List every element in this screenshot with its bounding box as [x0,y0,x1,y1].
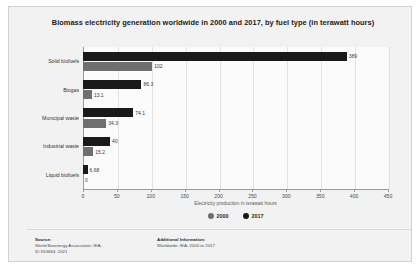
x-tick [151,189,152,192]
x-tick-label: 50 [114,193,120,199]
x-tick-label: 150 [180,193,189,199]
bar-2017 [83,165,88,174]
chart-page: Biomass electricity generation worldwide… [0,0,420,270]
x-tick-label: 450 [384,193,393,199]
bar-2000 [83,90,92,99]
gridline [355,47,356,189]
chart-card: Biomass electricity generation worldwide… [8,6,412,262]
category-label: Liquid biofuels [13,172,79,178]
footer-divider [27,229,411,230]
bar-value-label: 40 [112,138,118,144]
x-tick-label: 400 [350,193,359,199]
bar-value-label: 15.2 [95,149,105,155]
category-label: Industrial waste [13,143,79,149]
x-tick [117,189,118,192]
additional-info-line-1: Worldwide; IEA; 2000 to 2017 [157,243,287,249]
x-axis-title: Electricity production in terawatt hours [83,201,388,206]
x-tick [252,189,253,192]
gridline [253,47,254,189]
bar-value-label: 86.3 [143,81,153,87]
bar-2000 [83,147,93,156]
x-tick-label: 100 [147,193,156,199]
legend-swatch-icon [243,213,249,219]
category-label: Municipal waste [13,115,79,121]
x-tick-label: 200 [214,193,223,199]
bar-value-label: 0 [85,177,88,183]
x-tick [388,189,389,192]
legend-swatch-icon [208,213,214,219]
gridline [389,47,390,189]
bar-2017 [83,80,141,89]
legend-label: 2000 [217,213,229,219]
legend-item[interactable]: 2017 [243,213,264,219]
gridline [287,47,288,189]
legend-label: 2017 [252,213,264,219]
bar-value-label: 74.1 [135,110,145,116]
x-axis-line [83,189,388,190]
bar-2000 [83,119,106,128]
bar-value-label: 102 [154,63,162,69]
category-label: Biogas [13,87,79,93]
x-tick-label: 250 [248,193,257,199]
bar-2017 [83,137,110,146]
legend-item[interactable]: 2000 [208,213,229,219]
x-tick [185,189,186,192]
category-label: Solid biofuels [13,58,79,64]
x-tick [219,189,220,192]
bar-2000 [83,62,152,71]
gridline [220,47,221,189]
gridline [321,47,322,189]
bar-2017 [83,52,347,61]
x-tick-label: 300 [282,193,291,199]
bar-value-label: 13.1 [94,92,104,98]
additional-info-block: Additional Information: Worldwide; IEA; … [157,237,287,249]
x-tick-label: 0 [82,193,85,199]
x-tick [320,189,321,192]
x-tick [354,189,355,192]
gridline [186,47,187,189]
bar-value-label: 34.3 [108,120,118,126]
bar-value-label: 389 [349,53,357,59]
chart-legend: 20002017 [83,213,388,219]
x-tick-label: 350 [316,193,325,199]
source-line-2: ID 553664; 2021 [35,249,145,255]
x-tick [83,189,84,192]
x-tick [286,189,287,192]
source-block: Source: World Bioenergy Association; IEA… [35,237,145,255]
bar-value-label: 6.68 [90,167,100,173]
y-axis-category-labels: Solid biofuelsBiogasMunicipal wasteIndus… [9,7,79,270]
chart-title: Biomass electricity generation worldwide… [45,17,381,28]
bar-2017 [83,108,133,117]
